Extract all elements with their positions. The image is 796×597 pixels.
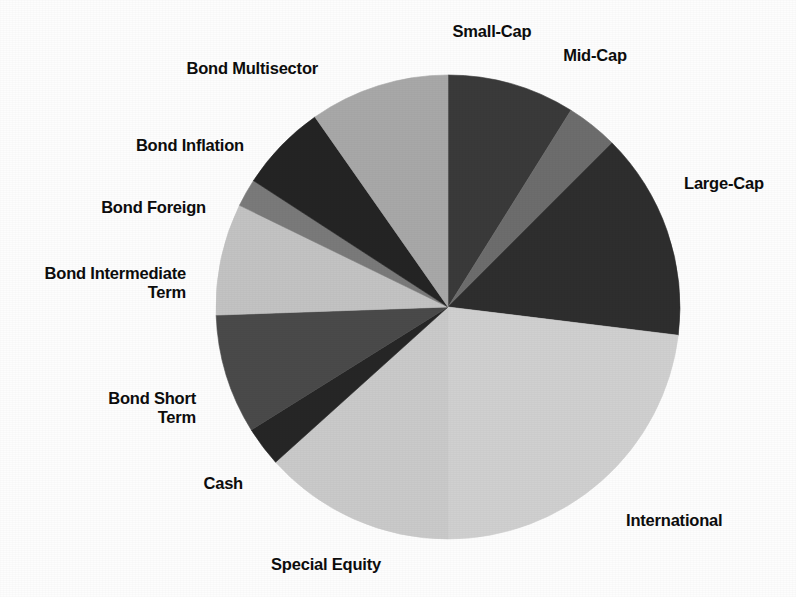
pie-slice-label: Cash	[0, 474, 243, 493]
pie-slice-label: Small-Cap	[332, 22, 652, 41]
pie-slices-group	[216, 75, 680, 539]
pie-slice-label: Mid-Cap	[435, 46, 755, 65]
pie-slice-label: Large-Cap	[684, 174, 764, 193]
pie-slice-label: Bond Inflation	[0, 136, 244, 155]
pie-slice-label: Bond Short Term	[0, 389, 196, 428]
pie-slice-label: Bond Intermediate Term	[0, 264, 186, 303]
pie-slice	[448, 307, 678, 539]
pie-chart-figure: Small-CapMid-CapLarge-CapInternationalSp…	[0, 0, 796, 597]
pie-slice-label: Special Equity	[0, 555, 381, 574]
pie-slice-label: Bond Multisector	[0, 59, 318, 78]
pie-slice-label: International	[626, 511, 722, 530]
pie-slice-label: Bond Foreign	[0, 198, 206, 217]
